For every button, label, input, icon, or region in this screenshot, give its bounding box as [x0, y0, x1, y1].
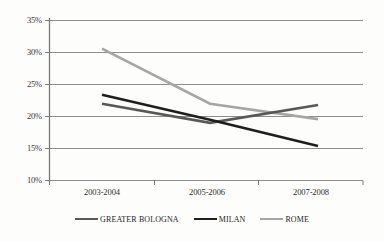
y-tick-label-10: 10%	[8, 175, 42, 185]
y-tick-label-20: 20%	[8, 111, 42, 121]
y-axis	[45, 18, 50, 182]
chart-plot-area	[0, 0, 384, 241]
legend-label-rome: ROME	[285, 215, 309, 224]
x-tick-label-2003-2004: 2003-2004	[67, 187, 137, 197]
x-axis	[50, 181, 364, 186]
legend-label-milan: MILAN	[219, 215, 246, 224]
chart-legend: GREATER BOLOGNA MILAN ROME	[0, 209, 384, 229]
x-tick-label-2007-2008: 2007-2008	[276, 187, 346, 197]
legend-swatch-greater-bologna	[75, 218, 98, 220]
y-tick-label-35: 35%	[8, 15, 42, 25]
data-series-group	[102, 49, 318, 146]
legend-swatch-rome	[260, 218, 283, 220]
y-tick-label-25: 25%	[8, 79, 42, 89]
x-tick-label-2005-2006: 2005-2006	[172, 187, 242, 197]
y-tick-label-30: 30%	[8, 47, 42, 57]
y-tick-label-15: 15%	[8, 143, 42, 153]
legend-swatch-milan	[194, 218, 217, 220]
legend-item-rome[interactable]: ROME	[260, 215, 309, 224]
legend-label-greater-bologna: GREATER BOLOGNA	[100, 215, 179, 224]
legend-item-greater-bologna[interactable]: GREATER BOLOGNA	[75, 215, 179, 224]
legend-item-milan[interactable]: MILAN	[194, 215, 246, 224]
line-chart: 35% 30% 25% 20% 15% 10% 2003-2004 2005-2…	[0, 0, 384, 241]
